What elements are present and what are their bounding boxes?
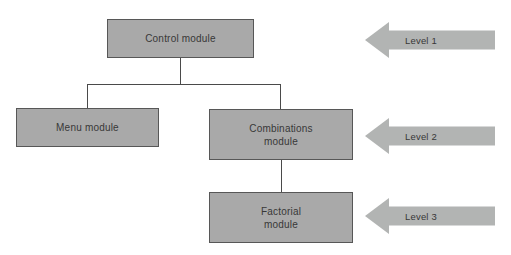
level-3-arrow-label: Level 3 <box>405 211 437 222</box>
node-combinations-module: Combinations module <box>209 109 353 160</box>
level-2-arrow-label: Level 2 <box>405 131 437 142</box>
module-hierarchy-diagram: Control module Menu module Combinations … <box>0 0 511 255</box>
node-factorial-module: Factorial module <box>209 192 353 243</box>
node-factorial-module-label: Factorial module <box>261 205 301 231</box>
node-control-module-label: Control module <box>145 32 216 45</box>
level-1-arrow: Level 1 <box>365 22 495 58</box>
node-control-module: Control module <box>107 19 254 58</box>
connector-to-menu <box>87 84 88 108</box>
connector-to-combinations <box>280 84 281 109</box>
level-2-arrow: Level 2 <box>365 118 495 154</box>
connector-combinations-to-factorial <box>281 160 282 192</box>
level-1-arrow-label: Level 1 <box>405 35 437 46</box>
node-combinations-module-label: Combinations module <box>249 122 313 148</box>
connector-branch-horizontal <box>87 84 281 85</box>
connector-control-drop <box>180 58 181 84</box>
node-menu-module-label: Menu module <box>56 121 119 134</box>
level-3-arrow: Level 3 <box>365 198 495 234</box>
node-menu-module: Menu module <box>16 108 159 147</box>
